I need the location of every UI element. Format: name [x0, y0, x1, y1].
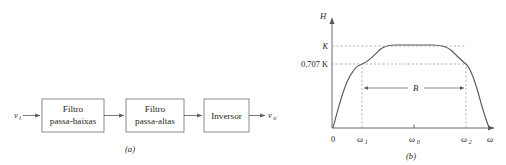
input-signal-label-text: v: [14, 111, 18, 120]
block-highpass-filter-line2: passa-altas: [135, 116, 175, 126]
y-tick-label-K: K: [321, 42, 328, 51]
y-tick-label-half-power: 0,707 K: [301, 60, 328, 69]
x-tick-label-omega1-text: ω: [357, 135, 363, 144]
response-curve: [333, 45, 489, 128]
x-axis-label: ω: [487, 134, 493, 144]
block-lowpass-filter-line1: Filtro: [63, 104, 84, 114]
output-signal-label-text: v: [268, 111, 272, 120]
x-tick-label-omega0: ω 0: [409, 135, 420, 145]
panel-a-caption: (a): [125, 144, 135, 154]
x-tick-label-omega2: ω 2: [461, 135, 472, 145]
output-signal-label: v o: [268, 111, 276, 121]
panel-b-frequency-response: H ω K 0,707 K B 0 ω 1 ω: [301, 11, 494, 161]
block-inverter-label: Inversor: [211, 111, 242, 121]
y-axis-label: H: [319, 11, 327, 21]
x-tick-label-0-text: 0: [331, 135, 335, 144]
input-signal-subscript: i: [19, 115, 21, 121]
x-tick-label-omega2-sub: 2: [469, 139, 472, 145]
block-inverter: Inversor: [204, 99, 249, 132]
bandwidth-annotation: B: [364, 83, 464, 93]
x-tick-label-omega0-text: ω: [409, 135, 415, 144]
x-tick-label-omega1: ω 1: [357, 135, 368, 145]
x-tick-label-0: 0: [331, 135, 335, 144]
textbook-figure: v i Filtro passa-baixas Filtro passa-alt…: [0, 0, 506, 165]
block-lowpass-filter: Filtro passa-baixas: [42, 99, 104, 132]
output-signal-subscript: o: [273, 115, 276, 121]
panel-b-caption: (b): [406, 151, 416, 161]
x-tick-label-omega1-sub: 1: [365, 139, 368, 145]
x-tick-label-omega2-text: ω: [461, 135, 467, 144]
input-signal-label: v i: [14, 111, 21, 121]
block-highpass-filter: Filtro passa-altas: [126, 99, 184, 132]
block-lowpass-filter-line2: passa-baixas: [50, 116, 97, 126]
panel-a-block-diagram: v i Filtro passa-baixas Filtro passa-alt…: [14, 99, 276, 154]
x-tick-label-omega0-sub: 0: [417, 139, 420, 145]
block-highpass-filter-line1: Filtro: [145, 104, 166, 114]
bandwidth-label: B: [413, 83, 419, 93]
